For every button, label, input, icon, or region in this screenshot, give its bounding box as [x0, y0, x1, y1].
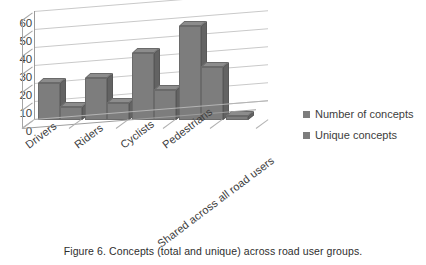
chart-legend: Number of concepts Unique concepts	[303, 108, 426, 150]
legend-swatch-icon	[303, 132, 310, 139]
bar-front-face	[38, 83, 60, 120]
legend-label: Unique concepts	[315, 129, 397, 141]
floor-right-edge	[256, 119, 269, 129]
bar-drivers-number-of-concepts	[38, 83, 60, 120]
chart-plot-area: 60 50 40 30 20 10 0	[0, 0, 300, 150]
bar-series-group	[22, 20, 268, 120]
legend-label: Number of concepts	[315, 108, 413, 120]
legend-item-number-of-concepts: Number of concepts	[303, 108, 426, 120]
figure-caption: Figure 6. Concepts (total and unique) ac…	[0, 245, 426, 257]
legend-swatch-icon	[303, 111, 310, 118]
x-label-shared-across-all-road-users: Shared across all road users	[155, 154, 276, 250]
legend-item-unique-concepts: Unique concepts	[303, 129, 426, 141]
gridline-60	[34, 0, 268, 12]
chart-floor	[22, 119, 268, 129]
figure-container: 60 50 40 30 20 10 0	[0, 0, 426, 265]
category-separator-3	[163, 119, 176, 129]
category-separator-4	[210, 119, 223, 129]
